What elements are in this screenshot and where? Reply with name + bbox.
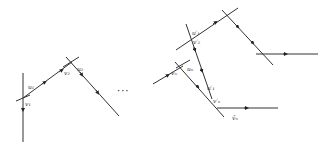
- arrow-upper-descending-b: [251, 41, 253, 43]
- path-diagram: u₁ v₁ v₂ u₂ ··· vₙ uₙ u′₁ v′₂ u′₁ v′ₙ ṽ…: [0, 0, 329, 147]
- label-u1-prime-lower: u′₁: [207, 84, 215, 91]
- arrow-descending-1b: [96, 90, 98, 93]
- label-u1: u₁: [28, 83, 34, 90]
- label-u1-prime: u′₁: [192, 29, 200, 36]
- label-v1: v₁: [25, 100, 31, 107]
- label-v2: v₂: [64, 69, 70, 76]
- arrow-rising-1a: [42, 82, 45, 84]
- right-path-group: vₙ uₙ u′₁ v′₂ u′₁ v′ₙ ṽₙ: [153, 8, 318, 121]
- left-path-group: u₁ v₁ v₂ u₂: [16, 57, 119, 142]
- descending-segment-n: [175, 62, 224, 117]
- label-v2-prime: v′₂: [193, 38, 201, 45]
- label-u2: u₂: [77, 65, 84, 72]
- upper-rising-segment: [176, 8, 238, 50]
- label-vn: vₙ: [171, 69, 177, 76]
- upper-descending-segment: [222, 10, 273, 65]
- label-vn-prime: v′ₙ: [213, 97, 221, 104]
- rising-segment-1: [23, 62, 72, 98]
- arrow-steep-a: [194, 47, 195, 50]
- label-un: uₙ: [187, 65, 194, 72]
- arrow-upper-descending-a: [236, 25, 238, 27]
- ellipsis: ···: [117, 85, 130, 96]
- arrow-descending-n: [196, 85, 198, 87]
- descending-segment-1: [66, 57, 119, 116]
- label-vn-tilde: ṽₙ: [232, 114, 238, 121]
